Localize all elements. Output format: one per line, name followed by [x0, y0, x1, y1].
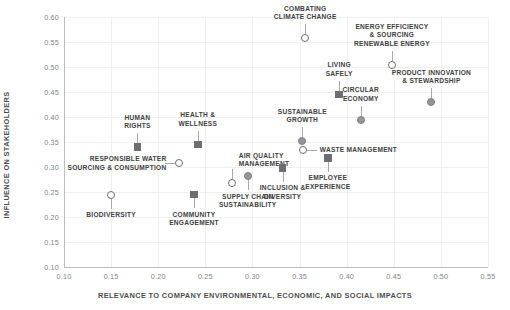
x-axis-line	[64, 267, 488, 268]
y-tick-label: 0.10	[29, 263, 59, 272]
x-tick-label: 0.25	[190, 272, 220, 281]
gridline-vertical	[488, 17, 489, 267]
gridline-horizontal	[64, 142, 488, 143]
data-point-marker[interactable]	[194, 141, 202, 149]
y-tick-label: 0.20	[29, 213, 59, 222]
x-tick-label: 0.20	[143, 272, 173, 281]
x-tick-label: 0.45	[379, 272, 409, 281]
data-point-marker[interactable]	[299, 146, 307, 154]
data-point-marker[interactable]	[134, 143, 142, 151]
gridline-horizontal	[64, 92, 488, 93]
data-point-marker[interactable]	[388, 61, 396, 69]
data-point-label: HEALTH & WELLNESS	[138, 111, 258, 128]
x-tick-label: 0.40	[332, 272, 362, 281]
y-tick-label: 0.15	[29, 238, 59, 247]
data-point-label: WASTE MANAGEMENT	[320, 146, 397, 154]
x-tick-label: 0.15	[96, 272, 126, 281]
data-point-label: PRODUCT INNOVATION & STEWARDSHIP	[371, 69, 491, 86]
x-axis-title: RELEVANCE TO COMPANY ENVIRONMENTAL, ECON…	[0, 291, 510, 300]
leader-line	[307, 150, 317, 151]
leader-line	[111, 199, 112, 209]
data-point-marker[interactable]	[427, 98, 435, 106]
x-tick-label: 0.10	[49, 272, 79, 281]
leader-line	[431, 88, 432, 98]
leader-line	[302, 127, 303, 137]
y-axis-title: INFLUENCE ON STAKEHOLDERS	[0, 0, 14, 310]
data-point-marker[interactable]	[301, 34, 309, 42]
x-tick-label: 0.55	[473, 272, 503, 281]
data-point-marker[interactable]	[107, 191, 115, 199]
data-point-label: COMMUNITY ENGAGEMENT	[134, 211, 254, 228]
x-tick-label: 0.35	[285, 272, 315, 281]
x-tick-label: 0.50	[426, 272, 456, 281]
materiality-matrix-chart: INFLUENCE ON STAKEHOLDERS RELEVANCE TO C…	[0, 0, 510, 310]
data-point-label: ENERGY EFFICIENCY & SOURCING RENEWABLE E…	[332, 23, 452, 48]
x-tick-label: 0.30	[237, 272, 267, 281]
leader-line	[328, 162, 329, 172]
data-point-label: CIRCULAR ECONOMY	[301, 86, 421, 103]
leader-line	[361, 106, 362, 116]
data-point-marker[interactable]	[298, 137, 306, 145]
y-tick-label: 0.30	[29, 163, 59, 172]
leader-line	[137, 133, 138, 143]
y-tick-label: 0.40	[29, 113, 59, 122]
y-tick-label: 0.55	[29, 38, 59, 47]
data-point-label: COMBATING CLIMATE CHANGE	[245, 5, 365, 22]
leader-line	[392, 51, 393, 61]
gridline-horizontal	[64, 242, 488, 243]
leader-line	[198, 131, 199, 141]
leader-line	[305, 24, 306, 34]
data-point-marker[interactable]	[244, 172, 252, 180]
data-point-marker[interactable]	[175, 159, 183, 167]
data-point-marker[interactable]	[324, 154, 332, 162]
data-point-label: EMPLOYEE EXPERIENCE	[268, 174, 388, 191]
y-axis-line	[64, 17, 65, 267]
y-tick-label: 0.45	[29, 88, 59, 97]
y-tick-label: 0.50	[29, 63, 59, 72]
y-tick-label: 0.25	[29, 188, 59, 197]
data-point-marker[interactable]	[357, 116, 365, 124]
y-tick-label: 0.60	[29, 13, 59, 22]
data-point-marker[interactable]	[279, 164, 287, 172]
data-point-label: SUSTAINABLE GROWTH	[242, 108, 362, 125]
plot-area: BIODIVERSITYHUMAN RIGHTSRESPONSIBLE WATE…	[64, 17, 488, 267]
y-tick-label: 0.35	[29, 138, 59, 147]
leader-line	[232, 169, 233, 179]
